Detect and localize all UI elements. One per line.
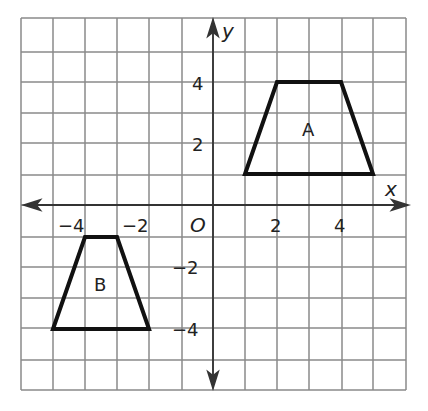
y-tick-2: 2 [192, 134, 203, 155]
x-tick-neg2: −2 [122, 215, 149, 236]
shape-b-label: B [94, 274, 106, 295]
x-tick-neg4: −4 [58, 215, 85, 236]
origin-label: O [190, 213, 206, 237]
shape-a-label: A [302, 119, 315, 140]
x-tick-2: 2 [270, 215, 281, 236]
x-axis [24, 200, 408, 210]
coordinate-plane: y x O −4 −2 2 4 4 2 −2 −4 A B [0, 0, 428, 411]
y-axis [208, 20, 218, 388]
x-tick-4: 4 [334, 215, 345, 236]
y-tick-neg2: −2 [172, 257, 199, 278]
y-tick-neg4: −4 [172, 319, 199, 340]
y-axis-label: y [221, 19, 235, 43]
y-tick-4: 4 [192, 73, 203, 94]
x-axis-label: x [384, 177, 397, 201]
